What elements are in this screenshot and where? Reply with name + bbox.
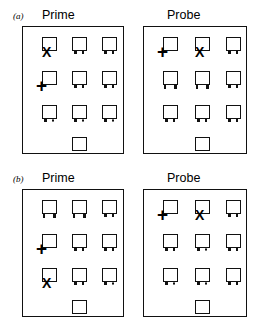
stimulus-item: X [188,35,218,65]
stimulus-item [95,103,125,133]
stimulus-item [95,232,125,262]
lamp-icon [226,268,241,282]
plus-marker-icon: + [36,239,47,258]
stimulus-foot-solid [74,85,77,88]
lamp-icon [72,268,87,282]
stimulus-foot-solid [174,85,176,89]
stimulus-foot-solid [74,282,77,285]
stimulus-foot-hollow [173,282,176,285]
x-marker-icon: X [195,208,204,222]
stimulus-item [188,69,218,99]
stimulus-feet [102,214,117,219]
stimulus-foot-solid [197,119,200,122]
stimulus-feet [102,282,117,287]
stimulus-item [156,103,186,133]
column-title-prime: Prime [42,172,75,185]
stimulus-foot-solid [83,214,85,218]
lamp-icon [226,234,241,248]
stimulus-foot-solid [236,119,239,122]
stimulus-foot-solid [73,214,75,218]
stimulus-foot-solid [104,51,107,54]
stimulus-feet [72,85,87,90]
stimulus-foot-solid [82,85,85,88]
stimulus-feet [72,282,87,287]
stimulus-foot-solid [165,248,168,251]
stimulus-grid: +X [144,190,246,316]
lamp-icon [226,37,241,51]
lamp-icon [72,71,87,85]
stimulus-foot-hollow [205,282,208,285]
stimulus-item: + [156,198,186,228]
stimulus-foot-solid [104,282,107,285]
stimulus-item [65,266,95,296]
stimulus-foot-solid [104,119,107,122]
stimulus-feet [195,119,210,124]
stimulus-item: + [156,35,186,65]
lamp-icon [72,105,87,119]
lamp-icon [102,105,117,119]
stimulus-foot-solid [104,248,107,251]
stimulus-item [219,69,249,99]
lamp-icon [72,234,87,248]
x-marker-icon: X [42,45,51,59]
stimulus-feet [42,214,57,219]
lamp-icon [226,71,241,85]
plain-square-icon [72,137,87,151]
stimulus-item [95,35,125,65]
plain-square-icon [72,300,87,314]
stimulus-item: X [35,35,65,65]
stimulus-feet [102,85,117,90]
stimulus-item [65,198,95,228]
stimulus-foot-solid [104,85,107,88]
lamp-icon [72,37,87,51]
stimulus-feet [195,248,210,253]
stimulus-foot-solid [74,248,77,251]
lamp-icon [195,71,210,85]
stimulus-foot-solid [44,119,47,122]
stimulus-foot-solid [164,85,166,89]
stimulus-grid: X+ [23,27,123,153]
stimulus-foot-solid [206,85,208,89]
stimulus-panel-prime: X+ [22,26,124,154]
stimulus-foot-solid [228,214,231,217]
plain-square-icon [195,300,210,314]
stimulus-item [219,198,249,228]
stimulus-foot-solid [43,214,45,218]
stimulus-foot-solid [104,214,107,217]
stimulus-foot-solid [197,282,200,285]
stimulus-item [219,266,249,296]
stimulus-foot-solid [165,282,168,285]
stimulus-foot-solid [112,248,115,251]
stimulus-foot-solid [197,248,200,251]
lamp-icon [102,268,117,282]
stimulus-foot-solid [112,51,115,54]
stimulus-feet [226,214,241,219]
lamp-icon [102,200,117,214]
stimulus-item [156,266,186,296]
column-title-prime: Prime [42,9,75,22]
lamp-icon [72,200,87,214]
stimulus-foot-solid [228,85,231,88]
column-title-probe: Probe [167,9,200,22]
stimulus-foot-solid [82,51,85,54]
stimulus-feet [163,119,178,124]
stimulus-feet [195,85,210,90]
plus-marker-icon: + [157,42,168,61]
stimulus-foot-solid [236,248,239,251]
stimulus-foot-solid [112,214,115,217]
stimulus-item [219,35,249,65]
lamp-icon [42,200,57,214]
stimulus-feet [102,51,117,56]
stimulus-foot-hollow [112,282,115,285]
stimulus-grid: +X [144,27,246,153]
stimulus-foot-solid [236,85,239,88]
stimulus-foot-hollow [205,248,208,251]
stimulus-item [35,198,65,228]
panel-letter: (b) [13,175,24,184]
stimulus-item [95,198,125,228]
stimulus-foot-solid [236,214,239,217]
stimulus-feet [163,282,178,287]
stimulus-feet [163,85,178,90]
stimulus-feet [72,119,87,124]
stimulus-item [95,266,125,296]
